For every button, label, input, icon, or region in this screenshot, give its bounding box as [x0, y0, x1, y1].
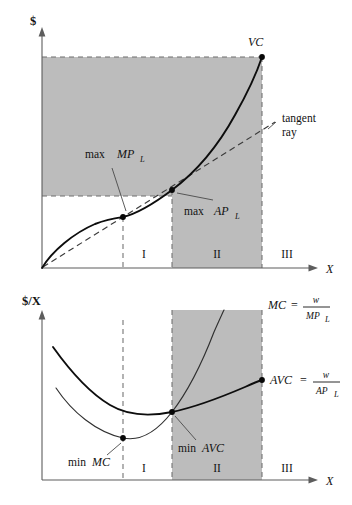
- lower-chart: $/X X MC = w MP L AVC = w AP L: [22, 294, 340, 488]
- max-apl-label-prefix: max: [184, 205, 204, 217]
- upper-chart: $ X VC tangent ray max MP L max AP L I I…: [30, 14, 334, 276]
- min-avc-label: min AVC: [178, 441, 225, 455]
- min-avc-label-variable: AVC: [201, 441, 225, 455]
- tangent-ray-label-line2: ray: [282, 126, 297, 139]
- lower-y-axis-arrowhead: [39, 310, 46, 320]
- avc-formula-equals: =: [300, 373, 307, 387]
- min-mc-label: min MC: [68, 455, 111, 469]
- tangent-ray-label-line1: tangent: [282, 112, 317, 125]
- mc-formula-denominator-variable: MP: [305, 311, 320, 321]
- vc-endpoint-point: [259, 54, 265, 60]
- tangent-ray-leader-line: [268, 122, 276, 129]
- upper-x-axis-label: X: [325, 262, 334, 276]
- max-mpl-label-prefix: max: [85, 148, 105, 160]
- avc-formula-denominator-subscript: L: [333, 389, 339, 399]
- max-mpl-point: [120, 214, 126, 220]
- max-mpl-label-subscript: L: [139, 154, 145, 164]
- upper-y-axis-label: $: [30, 14, 36, 28]
- mc-formula-denominator-subscript: L: [324, 314, 330, 324]
- min-mc-leader-line: [107, 443, 121, 455]
- max-apl-label-variable: AP: [213, 204, 229, 218]
- avc-endpoint-point: [259, 377, 265, 383]
- max-apl-label-subscript: L: [234, 211, 240, 221]
- avc-formula-numerator: w: [323, 370, 330, 380]
- max-mpl-label-variable: MP: [116, 147, 135, 161]
- lower-region-label-one: I: [142, 462, 146, 474]
- avc-formula-denominator-variable: AP: [315, 386, 328, 396]
- mc-formula-variable: MC: [267, 298, 287, 312]
- upper-region-label-three: III: [281, 248, 293, 260]
- mc-formula-equals: =: [291, 298, 298, 312]
- max-apl-point: [169, 187, 175, 193]
- upper-region-label-two: II: [213, 248, 221, 260]
- lower-y-axis-label: $/X: [22, 294, 41, 308]
- lower-x-axis-arrowhead: [309, 477, 319, 484]
- min-avc-label-prefix: min: [178, 442, 196, 454]
- avc-formula-variable: AVC: [269, 373, 293, 387]
- vc-curve-label: VC: [248, 35, 264, 49]
- min-mc-label-prefix: min: [68, 456, 86, 468]
- figure-canvas: $ X VC tangent ray max MP L max AP L I I…: [0, 0, 352, 505]
- min-mc-point: [120, 435, 126, 441]
- avc-formula-label: AVC = w AP L: [269, 370, 340, 399]
- mc-formula-numerator: w: [313, 295, 320, 305]
- upper-x-axis-arrowhead: [309, 265, 319, 272]
- min-avc-point: [169, 409, 175, 415]
- upper-region-label-one: I: [142, 248, 146, 260]
- upper-y-axis-arrowhead: [39, 27, 46, 37]
- lower-region-label-two: II: [213, 462, 221, 474]
- lower-x-axis-label: X: [325, 474, 334, 488]
- mc-formula-label: MC = w MP L: [267, 295, 330, 324]
- min-mc-label-variable: MC: [91, 455, 111, 469]
- lower-region-label-three: III: [281, 462, 293, 474]
- diagram-svg: $ X VC tangent ray max MP L max AP L I I…: [0, 0, 352, 505]
